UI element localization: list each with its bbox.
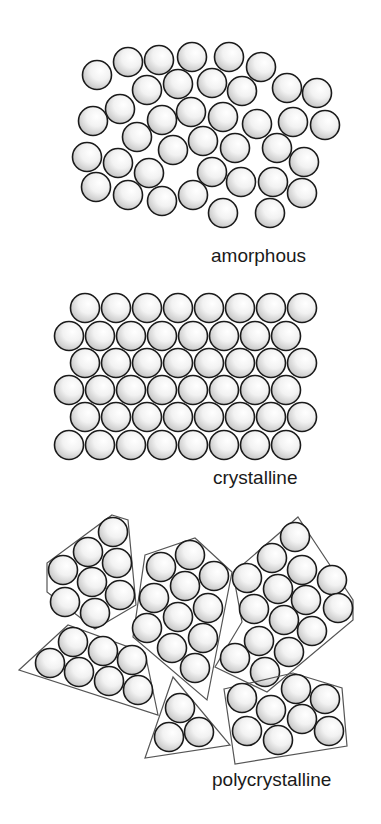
atom [311, 685, 340, 714]
atom [155, 723, 184, 752]
panel-amorphous: amorphous [73, 43, 340, 267]
atom [55, 322, 84, 351]
amorphous-label: amorphous [211, 245, 306, 266]
atom [221, 644, 250, 673]
atom [73, 143, 102, 172]
atom [198, 158, 227, 187]
atom [65, 658, 94, 687]
atom [171, 572, 200, 601]
atom [288, 349, 317, 378]
atom [89, 637, 118, 666]
atom [241, 431, 270, 460]
atom [164, 349, 193, 378]
atom [288, 179, 317, 208]
atom [124, 676, 153, 705]
atom [164, 403, 193, 432]
atom [210, 322, 239, 351]
atom [164, 70, 193, 99]
polycrystalline-label: polycrystalline [212, 769, 331, 790]
atom [311, 111, 340, 140]
atom [194, 594, 223, 623]
diagram-canvas: amorphous crystalline polycrystalline [0, 0, 381, 824]
atom [106, 581, 135, 610]
atom [55, 376, 84, 405]
atom [104, 149, 133, 178]
atom [148, 187, 177, 216]
atom [106, 95, 135, 124]
atom [270, 606, 299, 635]
atom [226, 403, 255, 432]
atom [164, 294, 193, 323]
atom [179, 431, 208, 460]
atom [185, 718, 214, 747]
atom [102, 349, 131, 378]
atom [118, 646, 147, 675]
atom [177, 98, 206, 127]
grain [47, 515, 136, 629]
atom [78, 568, 107, 597]
atom [292, 586, 321, 615]
atom [148, 106, 177, 135]
crystalline-atoms [55, 294, 317, 460]
atom [74, 538, 103, 567]
atom [179, 376, 208, 405]
atom [247, 53, 276, 82]
atom [288, 294, 317, 323]
atom [279, 108, 308, 137]
atom [133, 76, 162, 105]
atom [147, 553, 176, 582]
atom [86, 322, 115, 351]
atom [195, 294, 224, 323]
grain [224, 673, 347, 764]
atom [272, 431, 301, 460]
atom [117, 431, 146, 460]
atom [257, 349, 286, 378]
atom [233, 564, 262, 593]
atom [86, 376, 115, 405]
atom [288, 403, 317, 432]
atom [179, 181, 208, 210]
atom [140, 584, 169, 613]
atom [82, 173, 111, 202]
atom [257, 403, 286, 432]
atom [148, 322, 177, 351]
atom [210, 376, 239, 405]
atom [272, 322, 301, 351]
atom [148, 431, 177, 460]
atom [264, 575, 293, 604]
atom [103, 549, 132, 578]
atom [240, 595, 269, 624]
atom [102, 294, 131, 323]
atom [288, 705, 317, 734]
atom [86, 431, 115, 460]
atom [227, 168, 256, 197]
atom [117, 322, 146, 351]
atom [133, 349, 162, 378]
atom [215, 43, 244, 72]
atom [178, 43, 207, 72]
crystalline-label: crystalline [213, 467, 297, 488]
atom [36, 649, 65, 678]
atom [71, 403, 100, 432]
atom [226, 294, 255, 323]
atom [166, 694, 195, 723]
atom [102, 403, 131, 432]
atom [164, 603, 193, 632]
atom [264, 726, 293, 755]
atom [290, 148, 319, 177]
atom [79, 107, 108, 136]
atom [181, 654, 210, 683]
atom [133, 403, 162, 432]
atom [135, 159, 164, 188]
atom [275, 638, 304, 667]
atom [95, 667, 124, 696]
atom [117, 376, 146, 405]
atom [273, 74, 302, 103]
atom [303, 79, 332, 108]
atom [133, 614, 162, 643]
atom [99, 518, 128, 547]
atom [259, 168, 288, 197]
polycrystalline-grains [19, 515, 353, 764]
atom [81, 599, 110, 628]
atom [315, 717, 344, 746]
